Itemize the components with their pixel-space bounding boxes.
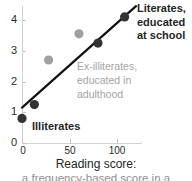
data-point <box>17 114 26 123</box>
annotation-literates: Literates, educated at school <box>137 2 192 43</box>
annotation-illiterates: Illiterates <box>32 120 80 134</box>
caption-line-2: a frequency-based score in a <box>0 172 192 181</box>
data-point <box>120 12 129 21</box>
data-point <box>44 55 53 64</box>
caption-line-1: Reading score: <box>0 157 192 172</box>
annotation-ex-illiterates: Ex-illiterates, educated in adulthood <box>77 59 153 101</box>
data-point <box>30 100 39 109</box>
data-point <box>93 38 102 47</box>
data-point <box>74 29 83 38</box>
caption: Reading score: a frequency-based score i… <box>0 157 192 181</box>
scatter-plot-figure: 4 3 2 1 0 0 50 100 Literates, educated a… <box>0 0 192 181</box>
